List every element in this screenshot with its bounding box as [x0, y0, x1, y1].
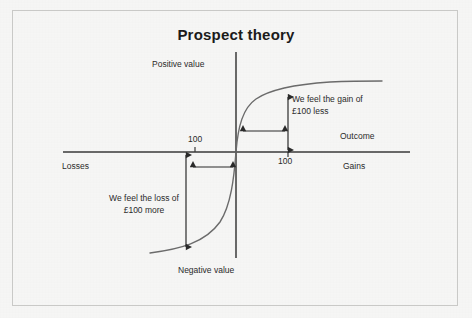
axis-label-outcome: Outcome [340, 131, 375, 142]
annotation-gain-line-1: We feel the gain of [292, 93, 363, 105]
prospect-theory-figure: Prospect theory [0, 0, 472, 318]
annotation-gain: We feel the gain of £100 less [292, 93, 363, 118]
x-tick-label-minus-100: 100 [188, 134, 202, 145]
annotation-loss: We feel the loss of £100 more [92, 192, 196, 217]
annotation-loss-line-2: £100 more [92, 204, 196, 216]
x-tick-label-plus-100: 100 [278, 156, 292, 167]
axis-label-positive-value: Positive value [152, 59, 204, 70]
axis-label-losses: Losses [62, 161, 89, 172]
axis-label-negative-value: Negative value [178, 265, 234, 276]
annotation-gain-line-2: £100 less [292, 105, 363, 117]
annotation-loss-line-1: We feel the loss of [92, 192, 196, 204]
chart-drawing [0, 0, 472, 318]
axis-label-gains: Gains [343, 161, 365, 172]
